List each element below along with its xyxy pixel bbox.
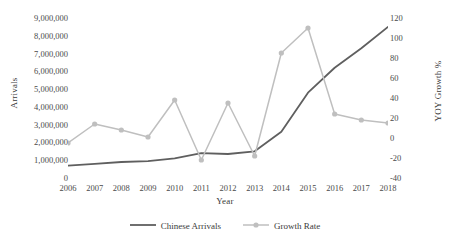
- x-axis-tick-label: 2008: [106, 184, 136, 193]
- x-axis-tick-label: 2012: [213, 184, 243, 193]
- legend-item[interactable]: Chinese Arrivals: [130, 221, 221, 231]
- x-axis-tick-label: 2007: [80, 184, 110, 193]
- data-point-marker: [119, 127, 124, 132]
- series-line: [68, 27, 388, 166]
- chart-svg: [68, 18, 388, 180]
- data-point-marker: [305, 25, 310, 30]
- x-axis-tick-label: 2018: [373, 184, 403, 193]
- x-axis-tick-label: 2017: [346, 184, 376, 193]
- legend-label: Chinese Arrivals: [161, 222, 221, 231]
- data-point-marker: [199, 157, 204, 162]
- legend-label: Growth Rate: [274, 222, 320, 231]
- x-axis-tick-label: 2009: [133, 184, 163, 193]
- x-axis-tick-label: 2015: [293, 184, 323, 193]
- chart-container: Arrivals YOY Growth % Year 01,000,0002,0…: [0, 0, 450, 243]
- data-point-marker: [359, 117, 364, 122]
- data-point-marker: [225, 100, 230, 105]
- legend-item[interactable]: Growth Rate: [243, 221, 320, 231]
- data-point-marker: [145, 134, 150, 139]
- x-axis-tick-label: 2010: [160, 184, 190, 193]
- legend-swatch-icon: [243, 221, 269, 231]
- x-axis-tick-label: 2006: [53, 184, 83, 193]
- x-axis-tick-label: 2016: [320, 184, 350, 193]
- series-growth-rate: [68, 25, 388, 162]
- chart-legend: Chinese ArrivalsGrowth Rate: [0, 221, 450, 231]
- series-line: [68, 28, 388, 160]
- legend-swatch-icon: [130, 221, 156, 231]
- x-axis-tick-label: 2011: [186, 184, 216, 193]
- data-point-marker: [172, 97, 177, 102]
- series-chinese-arrivals: [68, 27, 388, 166]
- data-point-marker: [385, 120, 388, 125]
- data-point-marker: [279, 50, 284, 55]
- x-axis-tick-label: 2014: [266, 184, 296, 193]
- data-point-marker: [252, 153, 257, 158]
- x-axis-tick-label: 2013: [240, 184, 270, 193]
- plot-area: [68, 18, 388, 178]
- data-point-marker: [332, 111, 337, 116]
- data-point-marker: [92, 121, 97, 126]
